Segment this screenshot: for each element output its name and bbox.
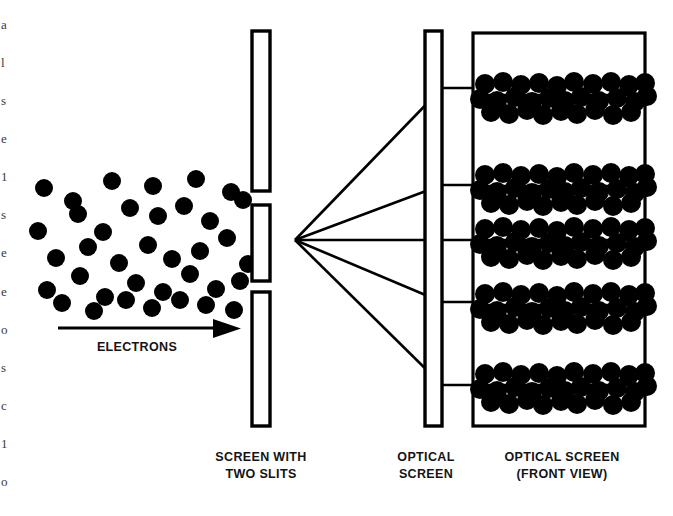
impact-dot <box>585 100 605 120</box>
impact-dot <box>603 395 623 415</box>
double-slit-diagram <box>0 0 673 516</box>
electron-dot <box>139 236 157 254</box>
impact-dot <box>603 315 623 335</box>
impact-dot <box>637 296 657 316</box>
impact-dot <box>481 312 501 332</box>
impact-dot <box>533 395 553 415</box>
impact-dot <box>621 102 641 122</box>
electron-dot <box>225 301 243 319</box>
impact-dot <box>603 105 623 125</box>
impact-dot <box>567 394 587 414</box>
optical-screen-caption: OPTICAL SCREEN <box>378 449 474 482</box>
electron-dot <box>96 288 114 306</box>
diffracted-ray <box>295 240 442 385</box>
impact-dot <box>499 195 519 215</box>
impact-dot <box>499 249 519 269</box>
impact-dot <box>637 231 657 251</box>
caption-line: OPTICAL SCREEN <box>474 449 650 466</box>
caption-line: TWO SLITS <box>196 466 326 483</box>
impact-dot <box>637 376 657 396</box>
impact-dot <box>603 196 623 216</box>
electron-dot <box>144 177 162 195</box>
impact-dot <box>585 245 605 265</box>
impact-dot <box>533 105 553 125</box>
electron-dot <box>218 229 236 247</box>
impact-dot <box>533 315 553 335</box>
electron-dot <box>29 222 47 240</box>
electron-direction-arrow <box>58 319 241 338</box>
impact-dot <box>499 394 519 414</box>
impact-dot <box>533 250 553 270</box>
impact-dot <box>603 250 623 270</box>
electron-dot <box>117 291 135 309</box>
electron-dot <box>187 170 205 188</box>
electron-dot <box>38 281 56 299</box>
impact-dot <box>481 247 501 267</box>
electron-dot <box>121 199 139 217</box>
barrier-top-segment <box>252 31 270 191</box>
electrons-label: ELECTRONS <box>52 340 222 354</box>
diffracted-ray <box>295 240 442 302</box>
electron-dot <box>197 296 215 314</box>
electron-cloud <box>29 170 257 320</box>
impact-dot <box>481 193 501 213</box>
electron-dot <box>181 265 199 283</box>
electron-dot <box>127 274 145 292</box>
figure-canvas: a l s e 1 s e e o s c 1 o ELECTRONS SCRE… <box>0 0 673 516</box>
electron-dot <box>94 223 112 241</box>
electron-dot <box>71 267 89 285</box>
impact-dot <box>585 390 605 410</box>
impact-dot <box>621 193 641 213</box>
caption-line: OPTICAL <box>378 449 474 466</box>
electron-dot <box>35 179 53 197</box>
diffracted-ray <box>295 185 442 240</box>
impact-dot <box>533 196 553 216</box>
electron-dot <box>154 283 172 301</box>
electron-dot <box>53 294 71 312</box>
diffracted-ray <box>295 88 442 240</box>
electron-dot <box>171 291 189 309</box>
caption-line: SCREEN <box>378 466 474 483</box>
impact-dot <box>499 104 519 124</box>
impact-dot <box>481 392 501 412</box>
impact-dot <box>637 86 657 106</box>
caption-line: (FRONT VIEW) <box>474 466 650 483</box>
electron-dot <box>79 238 97 256</box>
impact-dot <box>567 104 587 124</box>
screen-with-two-slits <box>252 31 270 426</box>
impact-dot <box>621 247 641 267</box>
optical-screen-edge-view <box>425 31 442 426</box>
electron-dot <box>143 299 161 317</box>
impact-dot <box>621 392 641 412</box>
electron-dot <box>231 272 249 290</box>
optical-screen-edge-view <box>425 31 442 426</box>
impact-dot <box>481 102 501 122</box>
electron-dot <box>85 302 103 320</box>
electron-dot <box>103 172 121 190</box>
impact-dot <box>567 195 587 215</box>
impact-dot <box>499 314 519 334</box>
electron-dot <box>201 212 219 230</box>
electron-dot <box>207 280 225 298</box>
impact-dot <box>567 249 587 269</box>
electron-dot <box>110 254 128 272</box>
electron-dot <box>175 197 193 215</box>
electron-dot <box>191 242 209 260</box>
electron-dot <box>47 249 65 267</box>
impact-dot <box>621 312 641 332</box>
screen-with-slits-caption: SCREEN WITH TWO SLITS <box>196 449 326 482</box>
impact-dot <box>585 310 605 330</box>
electron-dot <box>234 191 252 209</box>
impact-dot <box>567 314 587 334</box>
impact-dot <box>585 191 605 211</box>
electron-dot <box>149 207 167 225</box>
impact-dot <box>637 177 657 197</box>
barrier-bottom-segment <box>252 292 270 426</box>
optical-screen-front-caption: OPTICAL SCREEN (FRONT VIEW) <box>474 449 650 482</box>
barrier-middle-segment <box>252 205 270 281</box>
electron-dot <box>69 205 87 223</box>
caption-line: SCREEN WITH <box>196 449 326 466</box>
electron-dot <box>163 250 181 268</box>
